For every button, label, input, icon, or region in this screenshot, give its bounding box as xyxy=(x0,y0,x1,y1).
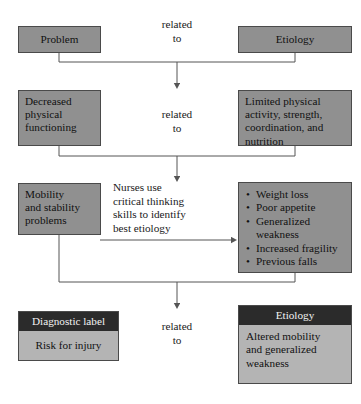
box-mobility-line3: problems xyxy=(25,214,94,227)
box-diagnostic-label-group[interactable]: Diagnostic label Risk for injury xyxy=(18,311,119,361)
box-decreased-line3: functioning xyxy=(25,121,94,134)
etiology-candidate-list: Weight loss Poor appetite Generalized we… xyxy=(246,188,344,268)
label-related-to-row2: related to xyxy=(140,108,214,135)
box-problem[interactable]: Problem xyxy=(18,26,101,53)
label-related-to-row1-line2: to xyxy=(140,32,214,46)
label-related-to-row2-line1: related xyxy=(140,108,214,122)
box-decreased-line2: physical xyxy=(25,108,94,121)
box-decreased-line1: Decreased xyxy=(25,95,94,108)
label-related-to-row1-line1: related xyxy=(140,18,214,32)
box-etiology-row4-header: Etiology xyxy=(239,306,351,325)
diagram-canvas: Problem related to Etiology Decreased ph… xyxy=(0,0,361,404)
label-nurses-critical-thinking: Nurses use critical thinking skills to i… xyxy=(113,181,231,235)
box-limited-line3: coordination, and xyxy=(245,121,345,134)
box-mobility-line1: Mobility xyxy=(25,188,94,201)
label-nurses-line4: best etiology xyxy=(113,222,231,236)
label-related-to-row4: related to xyxy=(140,320,214,347)
connector-row1-bracket xyxy=(59,53,295,62)
box-etiology-candidates[interactable]: Weight loss Poor appetite Generalized we… xyxy=(238,182,352,273)
box-etiology-row1[interactable]: Etiology xyxy=(238,26,352,53)
list-item: Generalized xyxy=(246,215,344,228)
box-problem-label: Problem xyxy=(41,33,79,46)
box-etiology-row4-body-line2: and generalized xyxy=(246,343,344,356)
box-etiology-row4-group[interactable]: Etiology Altered mobility and generalize… xyxy=(238,305,352,384)
box-mobility-and-stability-problems[interactable]: Mobility and stability problems xyxy=(18,183,101,235)
box-etiology-row1-label: Etiology xyxy=(276,33,315,46)
list-item-continuation: weakness xyxy=(246,228,344,241)
box-diagnostic-label-body: Risk for injury xyxy=(19,331,118,360)
box-diagnostic-label-header: Diagnostic label xyxy=(19,312,118,331)
box-mobility-line2: and stability xyxy=(25,201,94,214)
box-decreased-physical-functioning[interactable]: Decreased physical functioning xyxy=(18,90,101,146)
label-nurses-line2: critical thinking xyxy=(113,195,231,209)
label-related-to-row4-line1: related xyxy=(140,320,214,334)
box-limited-line2: activity, strength, xyxy=(245,108,345,121)
label-nurses-line3: skills to identify xyxy=(113,208,231,222)
box-etiology-row4-body: Altered mobility and generalized weaknes… xyxy=(239,325,351,383)
label-related-to-row2-line2: to xyxy=(140,122,214,136)
list-item: Poor appetite xyxy=(246,201,344,214)
list-item: Weight loss xyxy=(246,188,344,201)
list-item: Previous falls xyxy=(246,255,344,268)
label-nurses-line1: Nurses use xyxy=(113,181,231,195)
list-item: Increased fragility xyxy=(246,242,344,255)
label-related-to-row4-line2: to xyxy=(140,334,214,348)
box-limited-physical-activity[interactable]: Limited physical activity, strength, coo… xyxy=(238,90,352,146)
box-etiology-row4-body-line1: Altered mobility xyxy=(246,330,344,343)
box-limited-line4: nutrition xyxy=(245,135,345,148)
box-etiology-row4-body-line3: weakness xyxy=(246,357,344,370)
label-related-to-row1: related to xyxy=(140,18,214,45)
box-limited-line1: Limited physical xyxy=(245,95,345,108)
